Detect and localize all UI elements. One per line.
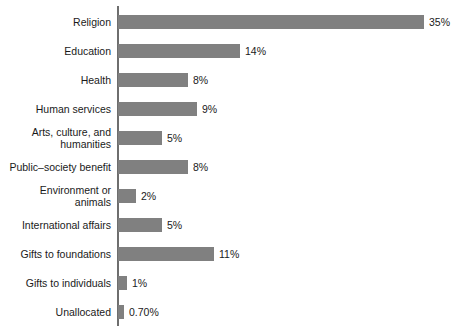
bar-rows-container: Religion 35% Education 14% Health 8% Hum… xyxy=(0,0,464,336)
bar-gifts-to-individuals xyxy=(118,276,127,290)
category-label: Public–society benefit xyxy=(0,161,111,173)
value-label: 35% xyxy=(429,16,450,28)
bar-arts-culture-humanities xyxy=(118,131,162,145)
table-row: International affairs 5% xyxy=(0,210,464,240)
category-label: Education xyxy=(0,45,111,57)
category-label: Environment or animals xyxy=(0,184,111,208)
table-row: Unallocated 0.70% xyxy=(0,297,464,327)
value-label: 5% xyxy=(167,132,182,144)
table-row: Religion 35% xyxy=(0,7,464,37)
bar-gifts-to-foundations xyxy=(118,247,214,261)
table-row: Gifts to individuals 1% xyxy=(0,268,464,298)
value-label: 2% xyxy=(141,190,156,202)
category-label: Religion xyxy=(0,16,111,28)
value-label: 8% xyxy=(193,74,208,86)
category-label: Arts, culture, and humanities xyxy=(0,126,111,150)
value-label: 9% xyxy=(202,103,217,115)
value-label: 5% xyxy=(167,219,182,231)
category-label: Health xyxy=(0,74,111,86)
category-label: Gifts to individuals xyxy=(0,277,111,289)
value-label: 1% xyxy=(132,277,147,289)
value-label: 14% xyxy=(245,45,266,57)
value-label: 8% xyxy=(193,161,208,173)
category-label: Human services xyxy=(0,103,111,115)
table-row: Arts, culture, and humanities 5% xyxy=(0,123,464,153)
category-label: International affairs xyxy=(0,219,111,231)
category-label: Unallocated xyxy=(0,306,111,318)
bar-health xyxy=(118,73,188,87)
value-label: 11% xyxy=(219,248,239,260)
value-label: 0.70% xyxy=(129,306,159,318)
bar-environment-or-animals xyxy=(118,189,136,203)
bar-public-society-benefit xyxy=(118,160,188,174)
bar-human-services xyxy=(118,102,197,116)
category-label: Gifts to foundations xyxy=(0,248,111,260)
bar-religion xyxy=(118,15,424,29)
table-row: Public–society benefit 8% xyxy=(0,152,464,182)
table-row: Environment or animals 2% xyxy=(0,181,464,211)
table-row: Gifts to foundations 11% xyxy=(0,239,464,269)
table-row: Human services 9% xyxy=(0,94,464,124)
bar-chart: Religion 35% Education 14% Health 8% Hum… xyxy=(0,0,464,336)
bar-education xyxy=(118,44,240,58)
table-row: Education 14% xyxy=(0,36,464,66)
bar-unallocated xyxy=(118,305,124,319)
table-row: Health 8% xyxy=(0,65,464,95)
bar-international-affairs xyxy=(118,218,162,232)
